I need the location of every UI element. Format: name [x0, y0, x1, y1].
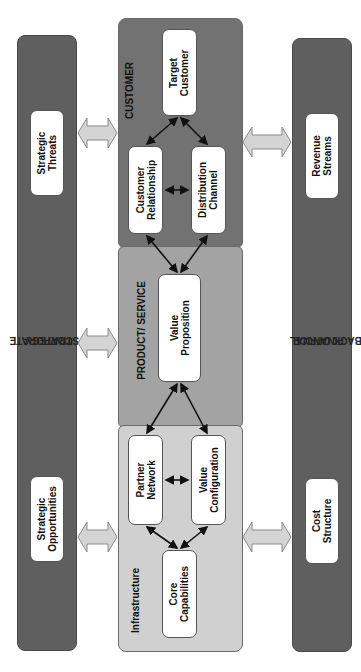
- arrows-layer: [0, 0, 361, 672]
- double-arrow-icon: [78, 118, 291, 552]
- connector-arrows: [147, 118, 207, 548]
